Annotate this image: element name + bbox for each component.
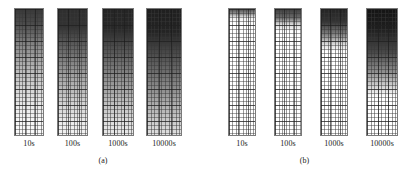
panel-slot: 10s bbox=[228, 8, 256, 149]
panels-row: 10s100s1000s10000s bbox=[14, 8, 202, 149]
panel-time-label: 10s bbox=[236, 139, 247, 149]
grid-major-lines bbox=[58, 9, 87, 135]
mesh-panel bbox=[366, 8, 398, 136]
grid-major-lines bbox=[275, 9, 301, 135]
panel-time-label: 10000s bbox=[152, 139, 176, 149]
subfigure-caption: (a) bbox=[4, 156, 202, 166]
grid-major-lines bbox=[367, 9, 397, 135]
panel-time-label: 1000s bbox=[324, 139, 344, 149]
grid-major-lines bbox=[103, 9, 133, 135]
mesh-panel bbox=[274, 8, 302, 136]
panel-slot: 10s bbox=[14, 8, 44, 149]
panel-slot: 10000s bbox=[146, 8, 182, 149]
grid-major-lines bbox=[321, 9, 347, 135]
mesh-panel bbox=[14, 8, 44, 136]
panel-slot: 1000s bbox=[102, 8, 134, 149]
panel-time-label: 10000s bbox=[370, 139, 394, 149]
mesh-panel bbox=[102, 8, 134, 136]
panel-time-label: 100s bbox=[65, 139, 81, 149]
panel-slot: 100s bbox=[274, 8, 302, 149]
subfigure-a: 10s100s1000s10000s(a) bbox=[4, 0, 202, 178]
subfigure-b: 10s100s1000s10000s(b) bbox=[206, 0, 403, 178]
mesh-panel bbox=[57, 8, 88, 136]
panel-time-label: 100s bbox=[280, 139, 296, 149]
panel-slot: 10000s bbox=[366, 8, 398, 149]
panels-row: 10s100s1000s10000s bbox=[228, 8, 403, 149]
panel-time-label: 1000s bbox=[108, 139, 128, 149]
panel-time-label: 10s bbox=[23, 139, 34, 149]
mesh-panel bbox=[228, 8, 256, 136]
grid-major-lines bbox=[147, 9, 181, 135]
panel-slot: 1000s bbox=[320, 8, 348, 149]
figure-root: 10s100s1000s10000s(a)10s100s1000s10000s(… bbox=[0, 0, 403, 178]
grid-major-lines bbox=[15, 9, 43, 135]
mesh-panel bbox=[320, 8, 348, 136]
subfigure-caption: (b) bbox=[206, 156, 403, 166]
panel-slot: 100s bbox=[57, 8, 88, 149]
mesh-panel bbox=[146, 8, 182, 136]
grid-major-lines bbox=[229, 9, 255, 135]
